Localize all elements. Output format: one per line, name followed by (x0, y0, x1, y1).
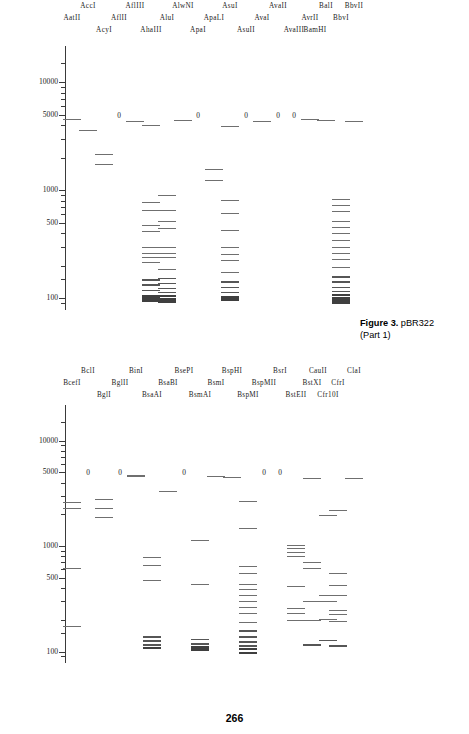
enzyme-label-bcli: BclI (81, 367, 95, 375)
y-axis-minor-tick (61, 63, 65, 64)
y-axis-minor-tick (61, 451, 65, 452)
dna-band (253, 121, 271, 122)
enzyme-label-avrii: AvrII (301, 14, 318, 22)
dna-band (332, 233, 350, 234)
dna-band (329, 621, 347, 622)
dna-band (329, 585, 347, 586)
dna-band (287, 608, 305, 609)
y-axis-minor-tick (61, 87, 65, 88)
dna-band (303, 562, 321, 563)
dna-band (143, 580, 161, 581)
y-axis-minor-tick (61, 247, 65, 248)
y-axis-minor-tick (61, 514, 65, 515)
y-axis-minor-tick (61, 483, 65, 484)
y-axis-tick-label: 1000 (8, 541, 58, 550)
enzyme-label-asui: AsuI (222, 2, 237, 10)
dna-band (319, 619, 337, 620)
y-axis-minor-tick (61, 556, 65, 557)
dna-band (143, 565, 161, 566)
dna-band (143, 647, 161, 649)
y-axis-tick-label: 500 (8, 573, 58, 582)
dna-band (158, 278, 176, 280)
enzyme-label-bbvi: BbvI (333, 14, 349, 22)
enzyme-label-bali: BalI (319, 2, 333, 10)
dna-band (205, 180, 223, 181)
enzyme-label-asuii: AsuII (237, 26, 255, 34)
dna-band (142, 279, 160, 281)
dna-band (159, 491, 177, 492)
dna-band (158, 228, 176, 229)
dna-band (332, 253, 350, 254)
dna-band (239, 601, 257, 602)
y-axis-major-tick (59, 115, 66, 116)
dna-band (158, 210, 176, 211)
dna-band (158, 283, 176, 285)
enzyme-label-cfr10i: Cfr10I (317, 391, 338, 399)
y-axis-major-tick (59, 652, 66, 653)
y-axis-major-tick (59, 578, 66, 579)
y-axis-major-tick (59, 472, 66, 473)
y-axis-major-tick (59, 82, 66, 83)
enzyme-label-bgli: BglI (97, 391, 111, 399)
dna-band (319, 515, 337, 516)
no-cut-marker-bsri: 0 (278, 468, 282, 477)
dna-band (239, 573, 257, 574)
dna-band (95, 164, 113, 165)
enzyme-label-bsteii: BstEII (286, 391, 307, 399)
dna-band (221, 213, 239, 214)
y-axis-major-tick (59, 441, 66, 442)
dna-band (191, 639, 209, 641)
dna-band (329, 614, 347, 615)
y-axis-minor-tick (61, 620, 65, 621)
dna-band (345, 121, 363, 122)
dna-band (158, 301, 176, 303)
dna-band (221, 281, 239, 283)
enzyme-label-aatii: AatII (64, 14, 81, 22)
dna-band (158, 195, 176, 196)
dna-band (287, 613, 305, 614)
dna-band (191, 643, 209, 645)
dna-band (221, 260, 239, 261)
dna-band (345, 478, 363, 479)
y-axis-major-tick (59, 546, 66, 547)
dna-band (142, 262, 160, 263)
dna-band (239, 528, 257, 529)
dna-band (332, 287, 350, 289)
y-axis-minor-tick (61, 562, 65, 563)
no-cut-marker-avaii: 0 (276, 110, 280, 119)
no-cut-marker-bspmii: 0 (262, 468, 266, 477)
dna-band (239, 630, 257, 632)
enzyme-label-bsepi: BsePI (175, 367, 194, 375)
y-axis-minor-tick (61, 633, 65, 634)
dna-band (143, 636, 161, 638)
dna-band (95, 499, 113, 500)
enzyme-label-bsabi: BsaBI (158, 379, 178, 387)
dna-band (142, 231, 160, 232)
figure-caption-part: (Part 1) (360, 330, 391, 340)
dna-band (142, 125, 160, 126)
dna-band (158, 247, 176, 248)
dna-band (287, 586, 305, 587)
dna-band (332, 301, 350, 303)
y-axis-tick-label: 5000 (8, 110, 58, 119)
y-axis-minor-tick (61, 93, 65, 94)
no-cut-marker-apai: 0 (196, 110, 200, 119)
dna-band (332, 211, 350, 212)
dna-band (287, 552, 305, 553)
enzyme-label-alwni: AlwNI (172, 2, 194, 10)
dna-band (221, 230, 239, 231)
enzyme-label-bsphi: BspHI (222, 367, 243, 375)
enzyme-label-bsaai: BsaAI (142, 391, 162, 399)
dna-band (287, 545, 305, 546)
y-axis-tick-label: 10000 (8, 436, 58, 445)
dna-band (143, 640, 161, 642)
dna-band (239, 645, 257, 647)
dna-band (142, 225, 160, 226)
dna-band (239, 613, 257, 614)
dna-band (332, 247, 350, 248)
y-axis-minor-tick (61, 656, 65, 657)
gel-panel-part-2: BcefIBclIBglIBglIIBinIBsaAIBsaBIBsePIBsm… (0, 365, 469, 710)
dna-band (63, 502, 81, 503)
dna-band (332, 259, 350, 260)
dna-band (142, 202, 160, 203)
